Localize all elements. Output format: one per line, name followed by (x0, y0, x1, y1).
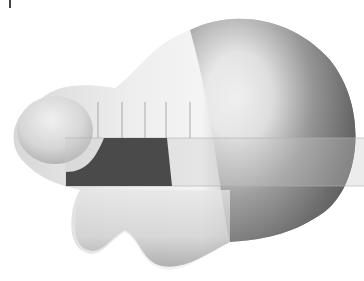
rendered-blob-scene (0, 0, 364, 281)
